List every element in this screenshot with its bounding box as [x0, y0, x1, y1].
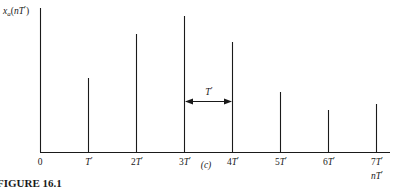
tick-label-n7-prime: ′ — [381, 155, 383, 165]
figure-caption: FIGURE 16.1 — [0, 178, 62, 189]
tick-label-n1: T′ — [85, 156, 92, 168]
tick-label-n5: 5T′ — [275, 156, 287, 168]
sample-spacing-prime: ′ — [211, 85, 213, 95]
tick-label-n2-prime: ′ — [141, 155, 143, 165]
tick-label-n0-prefix: 0 — [38, 157, 43, 167]
tick-label-n6: 6T′ — [323, 156, 335, 168]
tick-label-n4-prime: ′ — [237, 155, 239, 165]
x-axis-variable-prime: ′ — [381, 169, 383, 179]
tick-label-n1-prime: ′ — [91, 155, 93, 165]
y-axis-label: xa(nT′) — [3, 5, 29, 18]
tick-label-n4: 4T′ — [227, 156, 239, 168]
sample-spacing-label: T′ — [205, 86, 212, 98]
tick-label-n0: 0 — [38, 156, 43, 168]
sample-spacing-arrow — [185, 99, 232, 105]
y-axis-label-paren-close: ) — [26, 6, 29, 16]
tick-label-n6-prime: ′ — [333, 155, 335, 165]
panel-letter-label: (c) — [201, 161, 212, 171]
tick-label-n2: 2T′ — [131, 156, 143, 168]
x-axis-variable-label: nT′ — [371, 170, 383, 182]
tick-label-n5-prime: ′ — [285, 155, 287, 165]
figure-container: xa(nT′) 0 T′ 2T′ 3T′ 4T′ 5T′ 6T′ 7T′ nT′… — [0, 0, 404, 196]
tick-label-n3: 3T′ — [179, 156, 191, 168]
tick-label-n7: 7T′ — [371, 156, 383, 168]
tick-label-n3-prime: ′ — [189, 155, 191, 165]
